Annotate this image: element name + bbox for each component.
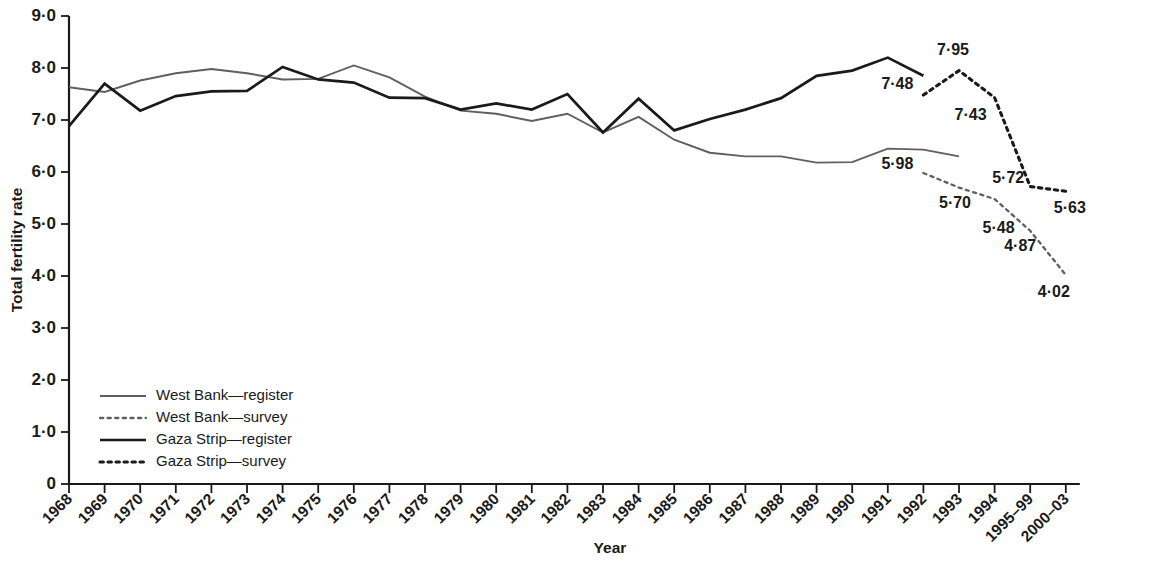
x-tick-label: 1970 <box>110 490 146 526</box>
y-axis-group: 01·02·03·04·05·06·07·08·09·0 Total ferti… <box>8 6 69 493</box>
y-tick-label: 6·0 <box>31 162 56 181</box>
data-point-label: 4·87 <box>1004 237 1036 254</box>
data-point-label: 5·98 <box>881 155 913 172</box>
x-tick-label: 1976 <box>324 490 361 527</box>
series-line <box>69 65 959 162</box>
data-point-label: 5·70 <box>939 194 971 211</box>
legend-label: Gaza Strip—register <box>156 430 292 447</box>
x-tick-label: 1989 <box>786 490 823 527</box>
legend-label: Gaza Strip—survey <box>156 452 287 469</box>
x-tick-label: 1983 <box>573 490 610 527</box>
x-tick-label: 1971 <box>146 490 183 527</box>
x-tick-label: 1975 <box>288 490 325 527</box>
x-tick-label: 1979 <box>430 490 467 527</box>
x-tick-label: 1980 <box>466 490 502 526</box>
y-tick-label: 1·0 <box>31 422 56 441</box>
x-tick-label: 1990 <box>822 490 858 526</box>
x-tick-label: 1977 <box>359 490 395 526</box>
fertility-rate-chart: 01·02·03·04·05·06·07·08·09·0 Total ferti… <box>0 0 1174 575</box>
x-tick-label: 1973 <box>217 490 254 527</box>
y-tick-label: 0 <box>47 474 56 493</box>
x-tick-label: 1982 <box>537 490 573 526</box>
y-tick-label: 3·0 <box>31 318 56 337</box>
data-point-label: 5·72 <box>992 169 1024 186</box>
x-tick-label: 1991 <box>858 490 895 527</box>
data-point-label: 4·02 <box>1038 283 1070 300</box>
x-tick-labels: 1968196919701971197219731974197519761977… <box>39 490 1072 545</box>
y-tick-labels: 01·02·03·04·05·06·07·08·09·0 <box>31 6 56 493</box>
x-tick-label: 1992 <box>893 490 929 526</box>
legend-label: West Bank—register <box>156 386 293 403</box>
x-tick-label: 1981 <box>502 490 539 527</box>
x-tick-label: 1969 <box>74 490 111 527</box>
x-axis-group: 1968196919701971197219731974197519761977… <box>39 484 1080 556</box>
x-tick-label: 1985 <box>644 490 681 527</box>
y-tick-label: 4·0 <box>31 266 56 285</box>
x-tick-label: 1968 <box>39 490 76 527</box>
x-tick-label: 1987 <box>715 490 751 526</box>
legend-label: West Bank—survey <box>156 408 288 425</box>
x-tick-label: 1978 <box>395 490 432 527</box>
y-tick-label: 2·0 <box>31 370 56 389</box>
data-point-label: 5·48 <box>983 219 1015 236</box>
y-tick-label: 5·0 <box>31 214 56 233</box>
chart-canvas: 01·02·03·04·05·06·07·08·09·0 Total ferti… <box>0 0 1174 575</box>
series-line <box>69 58 923 133</box>
y-tick-label: 7·0 <box>31 110 56 129</box>
data-point-label: 7·95 <box>937 41 969 58</box>
x-tick-label: 1988 <box>751 490 788 527</box>
x-tick-label: 1986 <box>680 490 717 527</box>
series-lines <box>69 58 1066 275</box>
data-point-label: 7·48 <box>881 75 913 92</box>
y-tick-label: 9·0 <box>31 6 56 25</box>
chart-legend: West Bank—registerWest Bank—surveyGaza S… <box>100 386 293 469</box>
y-tick-label: 8·0 <box>31 58 56 77</box>
y-axis-title: Total fertility rate <box>8 187 25 312</box>
x-tick-label: 1974 <box>252 490 289 527</box>
x-tick-label: 1984 <box>608 490 645 527</box>
data-point-label: 5·63 <box>1054 199 1086 216</box>
x-axis-title: Year <box>594 539 627 556</box>
data-point-label: 7·43 <box>955 106 987 123</box>
x-tick-label: 1993 <box>929 490 966 527</box>
y-tick-marks <box>61 16 69 484</box>
x-tick-label: 1972 <box>181 490 217 526</box>
